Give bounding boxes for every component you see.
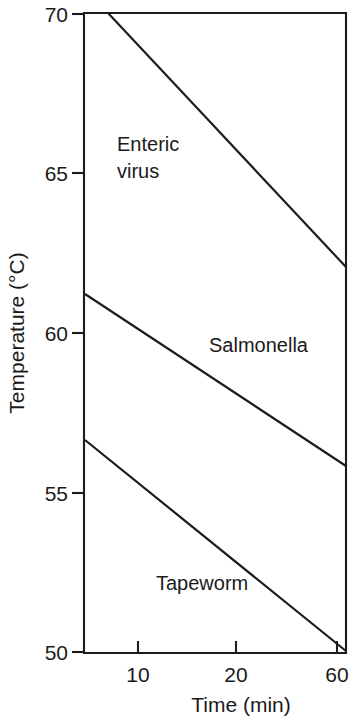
axis-frame-box bbox=[84, 13, 346, 653]
series-label-enteric-virus-line2: virus bbox=[117, 160, 159, 182]
series-label-salmonella: Salmonella bbox=[209, 334, 309, 356]
y-tick-label-55: 55 bbox=[45, 482, 68, 505]
y-tick-label-70: 70 bbox=[45, 3, 68, 26]
y-tick-label-50: 50 bbox=[45, 641, 68, 664]
y-tick-label-60: 60 bbox=[45, 322, 68, 345]
y-tick-label-65: 65 bbox=[45, 162, 68, 185]
series-lines bbox=[85, 13, 346, 651]
series-label-enteric-virus-line1: Enteric bbox=[117, 133, 179, 155]
series-line-tapeworm bbox=[85, 440, 346, 651]
x-tick-label-20: 20 bbox=[224, 663, 247, 686]
x-axis-ticks bbox=[138, 641, 337, 653]
x-axis-tick-labels: 10 20 60 bbox=[126, 663, 348, 686]
series-annotations: Enteric virus Salmonella Tapeworm bbox=[117, 133, 309, 594]
x-tick-label-10: 10 bbox=[126, 663, 149, 686]
x-tick-label-60: 60 bbox=[325, 663, 348, 686]
y-axis-tick-labels: 70 65 60 55 50 bbox=[45, 3, 68, 664]
plot-frame bbox=[84, 13, 346, 653]
chart-container: 70 65 60 55 50 10 20 60 Time (min) Tempe… bbox=[0, 0, 362, 723]
series-line-salmonella bbox=[85, 294, 346, 466]
line-chart: 70 65 60 55 50 10 20 60 Time (min) Tempe… bbox=[0, 0, 362, 723]
y-axis-ticks bbox=[72, 14, 84, 652]
y-axis-title: Temperature (°C) bbox=[5, 252, 28, 413]
x-axis-title: Time (min) bbox=[191, 693, 291, 716]
series-label-tapeworm: Tapeworm bbox=[156, 572, 248, 594]
